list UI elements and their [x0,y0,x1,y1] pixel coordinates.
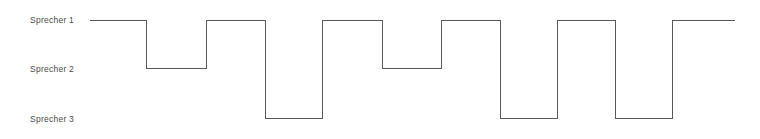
ytick-label-sprecher-3: Sprecher 3 [30,115,74,124]
ytick-label-sprecher-1: Sprecher 1 [30,16,74,25]
speaker-activity-step-line [90,20,735,118]
speaker-turn-step-chart: Sprecher 1 Sprecher 2 Sprecher 3 [0,0,760,139]
step-line-plot [0,0,760,139]
ytick-label-sprecher-2: Sprecher 2 [30,65,74,74]
